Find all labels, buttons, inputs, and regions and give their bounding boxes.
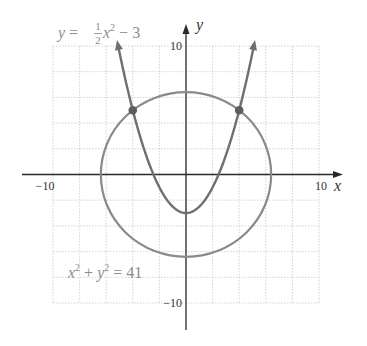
parabola-equation-label: y = 1 2 x2 − 3: [56, 20, 140, 46]
eq1-var: x: [102, 24, 110, 41]
svg-text:y =: y =: [56, 24, 78, 42]
y-axis-label: y: [194, 16, 204, 34]
eq1-numerator: 1: [95, 20, 101, 32]
eq1-rest: − 3: [115, 24, 140, 41]
x-axis-label: x: [333, 177, 341, 194]
svg-text:x2 − 3: x2 − 3: [102, 22, 140, 41]
y-tick-label-min: −10: [163, 296, 182, 310]
eq2-plus: +: [80, 264, 97, 281]
system-of-equations-graph: −10 10 10 −10 x y y = 1 2 x2 − 3 x2 + y2…: [0, 0, 367, 346]
y-tick-label-max: 10: [170, 39, 182, 53]
svg-text:x2 + y2 = 41: x2 + y2 = 41: [67, 262, 142, 282]
y-axis-arrow-icon: [183, 24, 190, 34]
intersection-point: [235, 106, 244, 115]
parabola-right-arrow-icon: [249, 40, 257, 51]
intersection-point: [129, 106, 138, 115]
eq2-rest: = 41: [109, 264, 142, 281]
x-tick-label-min: −10: [36, 179, 55, 193]
eq2-x: x: [67, 264, 75, 281]
eq1-equals: =: [65, 24, 78, 41]
circle-equation-label: x2 + y2 = 41: [67, 262, 142, 282]
eq1-denominator: 2: [95, 34, 101, 46]
parabola-left-arrow-icon: [115, 40, 123, 51]
x-tick-label-max: 10: [315, 179, 327, 193]
